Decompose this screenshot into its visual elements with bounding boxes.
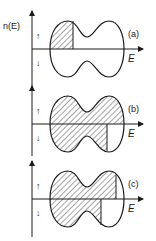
x-axis-label-b: E xyxy=(128,128,135,139)
spin-up-arrow-b: ↑ xyxy=(36,106,41,116)
x-axis-label-a: E xyxy=(128,53,135,64)
panel-label-a: (a) xyxy=(128,29,139,39)
panel-a xyxy=(32,11,143,87)
spin-down-arrow-b: ↓ xyxy=(36,133,41,143)
spin-up-arrow-a: ↑ xyxy=(36,31,41,41)
x-axis-label-c: E xyxy=(128,203,135,214)
density-of-states-diagram: n(E) ↑ ↓ (a) E ↑ ↓ (b) E ↑ ↓ (c) E xyxy=(0,0,156,241)
panel-label-b: (b) xyxy=(128,104,139,114)
spin-up-arrow-c: ↑ xyxy=(36,181,41,191)
panel-label-c: (c) xyxy=(128,179,139,189)
panel-c xyxy=(32,161,143,237)
y-axis-label: n(E) xyxy=(3,21,20,31)
spin-down-arrow-c: ↓ xyxy=(36,208,41,218)
panel-b xyxy=(32,86,143,156)
spin-down-arrow-a: ↓ xyxy=(36,58,41,68)
